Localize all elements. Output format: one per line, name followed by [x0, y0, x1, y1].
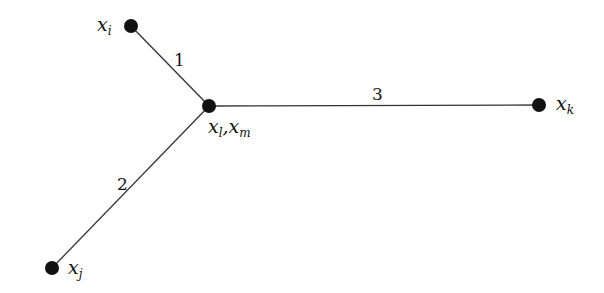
- node-xk: [532, 98, 546, 112]
- graph-diagram: 1 2 3 xi xl,xm xk xj: [0, 0, 604, 293]
- edge-label-3: 3: [372, 84, 383, 104]
- node-xj: [45, 261, 59, 275]
- edge-2: [52, 106, 209, 268]
- node-label-xi: xi: [97, 13, 112, 38]
- edge-3: [209, 105, 539, 106]
- edge-1: [131, 26, 209, 106]
- edge-label-1: 1: [174, 50, 185, 70]
- node-label-xj: xj: [68, 256, 83, 281]
- node-label-xlm: xl,xm: [208, 115, 251, 140]
- edge-label-2: 2: [117, 174, 128, 194]
- node-xi: [124, 19, 138, 33]
- node-label-xk: xk: [556, 92, 574, 117]
- node-xlm: [202, 99, 216, 113]
